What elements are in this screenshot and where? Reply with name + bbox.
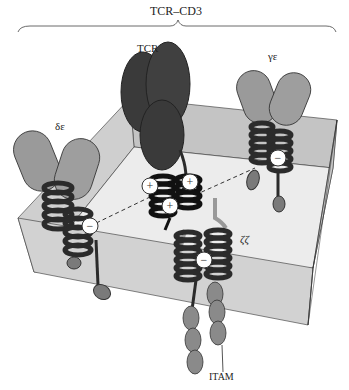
diagram-canvas: − + + + bbox=[0, 0, 349, 390]
positive-charge-1: + bbox=[147, 179, 154, 193]
positive-charge-2: + bbox=[187, 175, 194, 189]
tcr-cd3-title: TCR–CD3 bbox=[150, 4, 202, 19]
tcr-cd3-brace bbox=[18, 20, 336, 32]
zeta-zeta-label: ζζ bbox=[240, 233, 249, 245]
gamma-epsilon-label: γε bbox=[268, 50, 277, 62]
negative-charge-zeta: − bbox=[201, 253, 208, 267]
itam-label: ITAM bbox=[209, 371, 234, 382]
positive-charge-3: + bbox=[167, 199, 174, 213]
tcr-label: TCR bbox=[137, 42, 158, 54]
negative-charge-gamma-epsilon: − bbox=[275, 151, 282, 165]
tcr-cd3-diagram: − + + + bbox=[0, 0, 349, 390]
delta-epsilon-label: δε bbox=[55, 120, 65, 132]
negative-charge-delta-epsilon: − bbox=[87, 219, 94, 233]
